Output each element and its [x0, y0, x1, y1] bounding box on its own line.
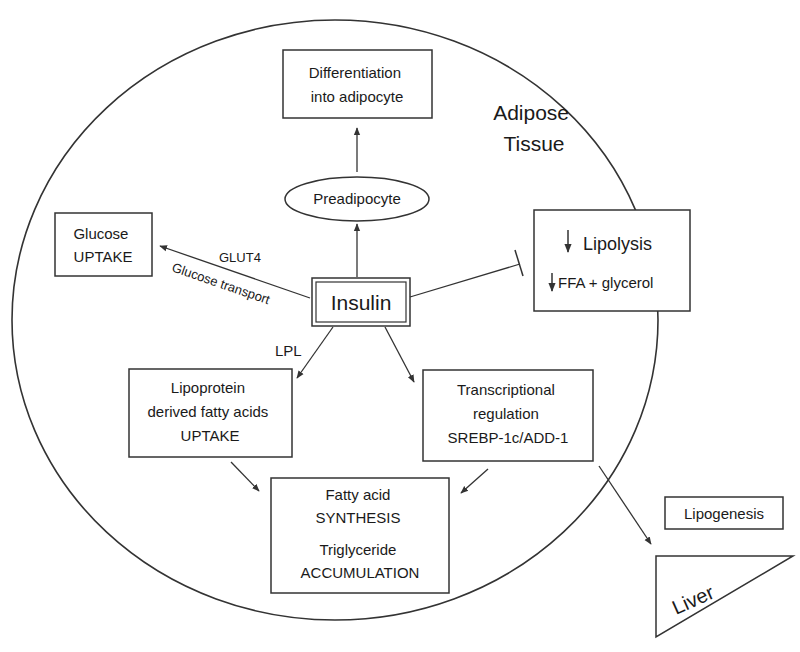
- edge-insulin-transcriptional: [385, 327, 414, 382]
- svg-text:Preadipocyte: Preadipocyte: [313, 190, 401, 207]
- lipoprotein-uptake-node: Lipoprotein derived fatty acids UPTAKE: [129, 369, 292, 457]
- edge-insulin-lipolysis: [410, 264, 520, 297]
- inhibition-bar-icon: [515, 250, 523, 276]
- edge-label-lpl: LPL: [275, 342, 302, 359]
- fatty-acid-synthesis-node: Fatty acid SYNTHESIS Triglyceride ACCUMU…: [271, 478, 449, 593]
- edge-transcriptional-liver: [599, 466, 651, 544]
- adipose-tissue-label: Adipose Tissue: [493, 101, 575, 155]
- svg-text:Insulin: Insulin: [331, 291, 392, 314]
- lipogenesis-node: Lipogenesis: [665, 497, 783, 529]
- svg-text:Lipolysis: Lipolysis: [583, 234, 652, 254]
- insulin-node: Insulin: [312, 278, 410, 326]
- edge-lipoprotein-fattyacid: [231, 462, 259, 491]
- liver-node: Liver: [656, 556, 793, 637]
- insulin-adipose-diagram: Adipose Tissue Differentiation into adip…: [0, 0, 800, 652]
- lipolysis-node: Lipolysis FFA + glycerol: [534, 210, 690, 311]
- transcriptional-regulation-node: Transcriptional regulation SREBP-1c/ADD-…: [423, 370, 593, 461]
- edge-label-glut4: GLUT4: [219, 250, 261, 265]
- differentiation-node: Differentiation into adipocyte: [283, 50, 432, 118]
- edge-insulin-lipoprotein: [297, 327, 333, 378]
- preadipocyte-node: Preadipocyte: [285, 177, 429, 221]
- svg-text:FFA + glycerol: FFA + glycerol: [558, 274, 653, 291]
- edge-transcriptional-fattyacid: [461, 469, 488, 493]
- glucose-uptake-node: Glucose UPTAKE: [55, 213, 152, 276]
- svg-text:Lipogenesis: Lipogenesis: [684, 505, 764, 522]
